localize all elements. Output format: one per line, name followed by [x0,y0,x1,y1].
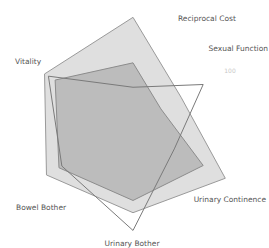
axis-label-sexual-function: Sexual Function [209,44,269,53]
axis-label-urinary-bother: Urinary Bother [104,239,160,248]
radar-plot: Reciprocal CostSexual FunctionUrinary Co… [0,0,269,248]
axis-label-bowel-bother: Bowel Bother [16,203,67,212]
radar-chart: Reciprocal CostSexual FunctionUrinary Co… [0,0,269,248]
axis-label-urinary-continence: Urinary Continence [194,195,267,204]
radial-tick-label: 100 [224,67,236,74]
axis-label-vitality: Vitality [15,57,42,66]
axis-label-reciprocal-cost: Reciprocal Cost [178,14,236,23]
